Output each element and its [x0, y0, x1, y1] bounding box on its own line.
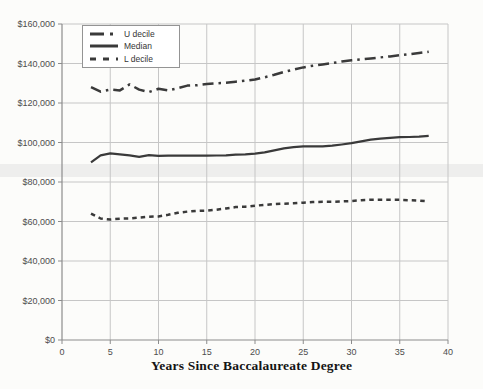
legend-item-l-decile: L decile	[89, 53, 175, 65]
legend-label-l-decile: L decile	[124, 55, 153, 64]
svg-text:20: 20	[250, 347, 260, 357]
svg-text:$40,000: $40,000	[22, 256, 55, 266]
median-line-sample	[89, 42, 119, 50]
svg-text:15: 15	[202, 347, 212, 357]
svg-text:$100,000: $100,000	[17, 138, 55, 148]
legend-item-median: Median	[89, 40, 175, 52]
svg-text:10: 10	[153, 347, 163, 357]
svg-text:30: 30	[346, 347, 356, 357]
legend-label-median: Median	[124, 42, 152, 51]
svg-text:$120,000: $120,000	[17, 98, 55, 108]
svg-text:$60,000: $60,000	[22, 217, 55, 227]
legend-item-u-decile: U decile	[89, 28, 175, 40]
svg-text:35: 35	[395, 347, 405, 357]
svg-text:40: 40	[443, 347, 453, 357]
x-axis-title: Years Since Baccalaureate Degree	[10, 358, 483, 374]
svg-text:$140,000: $140,000	[17, 59, 55, 69]
svg-text:$80,000: $80,000	[22, 177, 55, 187]
chart-canvas: $0$20,000$40,000$60,000$80,000$100,000$1…	[0, 0, 483, 389]
legend: U decile Median L decile	[82, 25, 180, 68]
svg-text:0: 0	[59, 347, 64, 357]
legend-label-u-decile: U decile	[124, 30, 155, 39]
svg-text:$20,000: $20,000	[22, 296, 55, 306]
l-decile-line-sample	[89, 55, 119, 63]
u-decile-line-sample	[89, 30, 119, 38]
svg-text:25: 25	[298, 347, 308, 357]
svg-text:$0: $0	[45, 335, 55, 345]
svg-text:5: 5	[108, 347, 113, 357]
svg-text:$160,000: $160,000	[17, 19, 55, 29]
